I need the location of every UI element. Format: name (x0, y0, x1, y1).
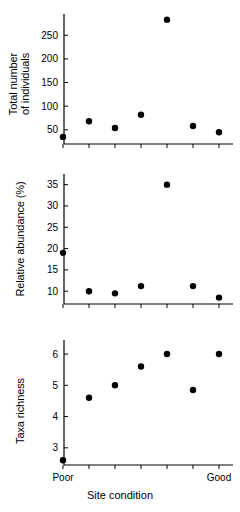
panel-1-y-tick-label: 20 (47, 243, 59, 254)
data-point (86, 118, 92, 124)
data-point (112, 290, 118, 296)
data-point (60, 250, 66, 256)
data-point (60, 134, 66, 140)
panel-1-y-tick-label: 25 (47, 222, 59, 233)
data-point (164, 16, 170, 22)
x-tick-label-good: Good (207, 472, 231, 483)
data-point (216, 351, 222, 357)
data-point (112, 382, 118, 388)
data-point (86, 288, 92, 294)
data-point (138, 111, 144, 117)
panel-0-y-tick-label: 200 (41, 53, 58, 64)
panel-1-y-tick-label: 30 (47, 200, 59, 211)
data-point (60, 457, 66, 463)
panel-1-y-tick-label: 35 (47, 179, 59, 190)
panel-taxa-richness: Taxa richness 3456PoorGood (0, 320, 240, 512)
data-point (190, 283, 196, 289)
panel-2-y-tick-label: 6 (52, 349, 58, 360)
panel-0-y-tick-label: 50 (47, 124, 59, 135)
panel-0-y-tick-label: 100 (41, 101, 58, 112)
panel-2-plot-area: 3456PoorGood (0, 320, 240, 512)
figure-multi-panel-scatter: Total number of individuals 501001502002… (0, 0, 240, 512)
data-point (190, 123, 196, 129)
panel-2-y-tick-label: 3 (52, 442, 58, 453)
panel-1-y-tick-label: 15 (47, 264, 59, 275)
panel-2-y-tick-label: 5 (52, 380, 58, 391)
data-point (190, 387, 196, 393)
data-point (138, 283, 144, 289)
data-point (138, 363, 144, 369)
data-point (112, 125, 118, 131)
panel-1-y-tick-label: 10 (47, 286, 59, 297)
data-point (86, 395, 92, 401)
panel-relative-abundance: Relative abundance (%) 101520253035 (0, 160, 240, 320)
panel-0-plot-area: 50100150200250 (0, 0, 240, 160)
data-point (164, 351, 170, 357)
data-point (216, 129, 222, 135)
panel-1-plot-area: 101520253035 (0, 160, 240, 320)
data-point (164, 181, 170, 187)
x-axis-title: Site condition (0, 489, 240, 501)
panel-0-y-tick-label: 250 (41, 30, 58, 41)
panel-total-number-of-individuals: Total number of individuals 501001502002… (0, 0, 240, 160)
x-tick-label-poor: Poor (52, 472, 74, 483)
data-point (216, 294, 222, 300)
panel-2-y-tick-label: 4 (52, 411, 58, 422)
panel-0-y-tick-label: 150 (41, 77, 58, 88)
